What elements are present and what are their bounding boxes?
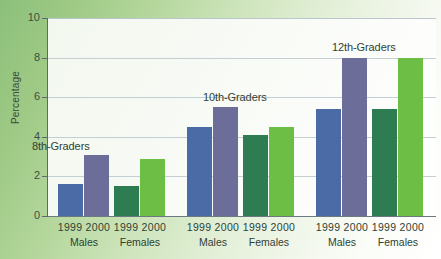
bar-chart: 0246810 Percentage 8th-Graders10th-Grade… [0, 0, 441, 259]
group-label-8th-graders: 8th-Graders [32, 140, 90, 152]
x-axis-years-label: 1999 2000 [312, 220, 372, 234]
x-axis-years-label: 1999 2000 [368, 220, 428, 234]
bar-8th-graders-males-2000 [84, 155, 109, 216]
x-axis-sex-label: Males [54, 235, 114, 249]
bar-8th-graders-males-1999 [58, 184, 83, 216]
bar-12th-graders-females-1999 [372, 109, 397, 216]
x-axis-sex-label: Males [183, 235, 243, 249]
x-axis-years-label: 1999 2000 [239, 220, 299, 234]
bar-8th-graders-females-1999 [114, 186, 139, 216]
y-axis-tick-label: 2 [14, 170, 40, 181]
bar-8th-graders-females-2000 [140, 159, 165, 216]
bar-10th-graders-males-2000 [213, 107, 238, 216]
x-axis-sex-label: Males [312, 235, 372, 249]
group-label-10th-graders: 10th-Graders [203, 91, 267, 103]
bar-10th-graders-females-2000 [269, 127, 294, 216]
x-axis-group-3: 1999 2000Females [239, 220, 299, 249]
x-axis-sex-label: Females [368, 235, 428, 249]
x-axis-group-1: 1999 2000Females [110, 220, 170, 249]
x-axis-group-0: 1999 2000Males [54, 220, 114, 249]
x-axis-sex-label: Females [239, 235, 299, 249]
x-axis-sex-label: Females [110, 235, 170, 249]
bar-10th-graders-males-1999 [187, 127, 212, 216]
y-axis-tick-mark [42, 216, 48, 217]
x-axis-years-label: 1999 2000 [183, 220, 243, 234]
x-axis-labels: 1999 2000Males1999 2000Females1999 2000M… [48, 220, 436, 258]
bar-10th-graders-females-1999 [243, 135, 268, 216]
bar-12th-graders-females-2000 [398, 58, 423, 216]
x-axis-years-label: 1999 2000 [54, 220, 114, 234]
group-label-12th-graders: 12th-Graders [332, 41, 396, 53]
x-axis-group-4: 1999 2000Males [312, 220, 372, 249]
bar-12th-graders-males-1999 [316, 109, 341, 216]
x-axis-years-label: 1999 2000 [110, 220, 170, 234]
x-axis-group-2: 1999 2000Males [183, 220, 243, 249]
bar-12th-graders-males-2000 [342, 58, 367, 216]
x-axis-line [47, 216, 436, 217]
y-axis-tick-label: 10 [14, 12, 40, 23]
x-axis-group-5: 1999 2000Females [368, 220, 428, 249]
y-axis-tick-label: 0 [14, 210, 40, 221]
y-axis-title: Percentage [10, 52, 21, 144]
